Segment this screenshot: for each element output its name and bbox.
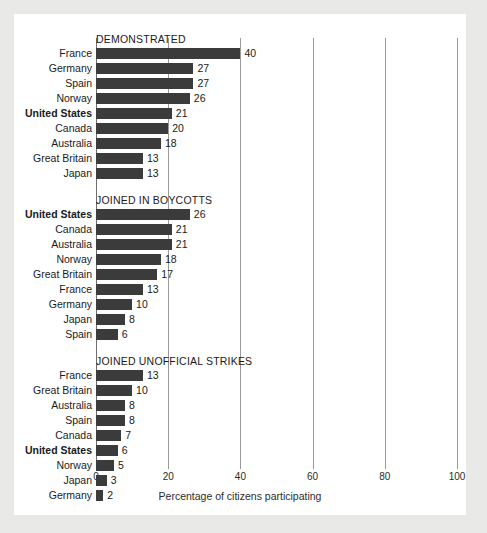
bar [96, 269, 157, 280]
bar-value-label: 13 [147, 167, 159, 180]
bar-row: Canada7 [14, 429, 466, 442]
bar [96, 48, 240, 59]
bar-value-label: 17 [161, 268, 173, 281]
bar [96, 239, 172, 250]
category-label: Germany [18, 62, 92, 75]
bar-value-label: 5 [118, 459, 124, 472]
bar [96, 415, 125, 426]
category-label: Australia [18, 137, 92, 150]
category-label: France [18, 369, 92, 382]
bar [96, 78, 193, 89]
bar [96, 224, 172, 235]
bar-value-label: 20 [172, 122, 184, 135]
chart-figure: 020406080100DEMONSTRATEDFrance40Germany2… [14, 14, 466, 515]
category-label: Spain [18, 328, 92, 341]
bar-value-label: 13 [147, 283, 159, 296]
bar-row: Japan3 [14, 474, 466, 487]
category-label: Spain [18, 77, 92, 90]
category-label: Japan [18, 167, 92, 180]
bar [96, 475, 107, 486]
bar-value-label: 27 [197, 62, 209, 75]
bar-value-label: 8 [129, 399, 135, 412]
bar-value-label: 6 [122, 444, 128, 457]
bar-value-label: 10 [136, 298, 148, 311]
bar-value-label: 8 [129, 313, 135, 326]
bar-row: Japan13 [14, 167, 466, 180]
panel-title-1: DEMONSTRATED [96, 33, 186, 45]
bar-value-label: 18 [165, 137, 177, 150]
x-axis-label: Percentage of citizens participating [14, 490, 466, 502]
bar [96, 400, 125, 411]
category-label: Canada [18, 122, 92, 135]
category-label: Germany [18, 298, 92, 311]
category-label: United States [18, 208, 92, 221]
bar-row: Norway5 [14, 459, 466, 472]
bar [96, 314, 125, 325]
bar-row: Japan8 [14, 313, 466, 326]
bar [96, 385, 132, 396]
category-label: Canada [18, 429, 92, 442]
category-label: Norway [18, 253, 92, 266]
bar-value-label: 21 [176, 107, 188, 120]
category-label: Australia [18, 399, 92, 412]
bar-row: Great Britain13 [14, 152, 466, 165]
bar [96, 138, 161, 149]
chart-plot-area: 020406080100DEMONSTRATEDFrance40Germany2… [14, 14, 466, 515]
category-label: France [18, 283, 92, 296]
bar [96, 209, 190, 220]
bar [96, 108, 172, 119]
bar [96, 254, 161, 265]
category-label: United States [18, 444, 92, 457]
bar-value-label: 7 [125, 429, 131, 442]
bar-row: France13 [14, 283, 466, 296]
category-label: Australia [18, 238, 92, 251]
bar-value-label: 13 [147, 152, 159, 165]
bar [96, 153, 143, 164]
bar [96, 299, 132, 310]
panel-title-2: JOINED IN BOYCOTTS [96, 194, 212, 206]
bar-row: Canada21 [14, 223, 466, 236]
bar-row: France13 [14, 369, 466, 382]
bar [96, 284, 143, 295]
bar-row: Great Britain10 [14, 384, 466, 397]
category-label: Japan [18, 474, 92, 487]
bar [96, 123, 168, 134]
bar-value-label: 40 [244, 47, 256, 60]
bar-value-label: 6 [122, 328, 128, 341]
bar-value-label: 26 [194, 92, 206, 105]
bar-row: Norway26 [14, 92, 466, 105]
category-label: United States [18, 107, 92, 120]
bar-value-label: 21 [176, 238, 188, 251]
category-label: Spain [18, 414, 92, 427]
category-label: Canada [18, 223, 92, 236]
bar-value-label: 21 [176, 223, 188, 236]
bar [96, 63, 193, 74]
bar-row: Spain27 [14, 77, 466, 90]
bar-row: Germany10 [14, 298, 466, 311]
bar-value-label: 27 [197, 77, 209, 90]
category-label: Japan [18, 313, 92, 326]
bar-row: United States26 [14, 208, 466, 221]
bar-row: United States6 [14, 444, 466, 457]
bar-row: France40 [14, 47, 466, 60]
category-label: Norway [18, 459, 92, 472]
bar-value-label: 26 [194, 208, 206, 221]
bar-value-label: 13 [147, 369, 159, 382]
bar [96, 93, 190, 104]
bar-row: Germany27 [14, 62, 466, 75]
bar-value-label: 8 [129, 414, 135, 427]
bar [96, 430, 121, 441]
category-label: Great Britain [18, 268, 92, 281]
category-label: Great Britain [18, 384, 92, 397]
bar [96, 460, 114, 471]
bar-row: Spain8 [14, 414, 466, 427]
bar-value-label: 10 [136, 384, 148, 397]
bar-row: Australia8 [14, 399, 466, 412]
category-label: Great Britain [18, 152, 92, 165]
bar-row: Spain6 [14, 328, 466, 341]
bar [96, 445, 118, 456]
bar-row: United States21 [14, 107, 466, 120]
bar-value-label: 3 [111, 474, 117, 487]
category-label: France [18, 47, 92, 60]
category-label: Norway [18, 92, 92, 105]
